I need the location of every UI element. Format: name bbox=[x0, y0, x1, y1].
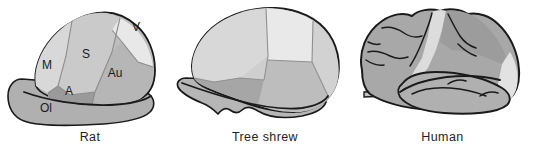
human-brain-illustration bbox=[352, 0, 533, 130]
tree-shrew-brain-illustration bbox=[172, 0, 358, 130]
brain-panel-human: Human bbox=[352, 0, 533, 161]
brain-panel-rat: M S V Au A Ol Rat bbox=[0, 0, 180, 161]
association-cortex-label: A bbox=[65, 84, 73, 98]
panel-caption-rat: Rat bbox=[0, 130, 180, 144]
panel-caption-tree-shrew: Tree shrew bbox=[172, 130, 358, 144]
panel-caption-human: Human bbox=[352, 130, 533, 144]
brain-panel-tree-shrew: Tree shrew bbox=[172, 0, 358, 161]
auditory-cortex-label: Au bbox=[108, 66, 123, 80]
comparative-brain-figure: M S V Au A Ol Rat bbox=[0, 0, 533, 161]
motor-cortex-label: M bbox=[42, 58, 52, 72]
rat-brain-illustration: M S V Au A Ol bbox=[0, 0, 180, 130]
visual-cortex-label: V bbox=[132, 20, 140, 34]
olfactory-bulb-label: Ol bbox=[40, 101, 52, 115]
somatosensory-cortex-label: S bbox=[82, 47, 90, 61]
